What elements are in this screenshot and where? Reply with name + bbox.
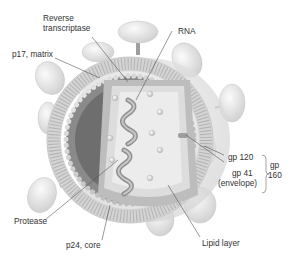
label-reverse-transcriptase-1: Reverse (43, 13, 74, 23)
label-rna: RNA (178, 26, 195, 36)
label-gp160-1: gp (270, 160, 279, 170)
label-lipid-layer: Lipid layer (202, 238, 240, 248)
hiv-diagram: Reverse transcriptase RNA p17, matrix gp… (0, 0, 294, 265)
label-protease: Protease (14, 216, 47, 226)
label-p24-core: p24, core (66, 240, 101, 250)
label-envelope: (envelope) (218, 178, 257, 188)
label-reverse-transcriptase-2: transcriptase (43, 23, 90, 33)
label-gp160-2: 160 (268, 170, 282, 180)
label-gp41: gp 41 (232, 168, 253, 178)
label-gp120: gp 120 (228, 152, 253, 162)
label-p17-matrix: p17, matrix (12, 49, 53, 59)
